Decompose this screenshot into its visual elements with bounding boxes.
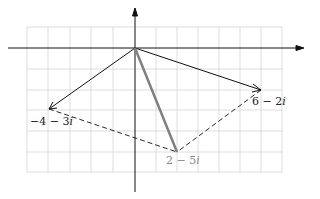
vectors xyxy=(49,48,261,152)
label-sum: 2 − 5i xyxy=(166,154,200,167)
vector-b xyxy=(49,48,135,109)
label-b: −4 − 3i xyxy=(30,115,73,128)
label-a: 6 − 2i xyxy=(252,95,286,108)
